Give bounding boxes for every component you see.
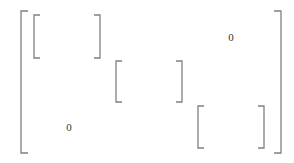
left-bracket [116, 61, 122, 102]
right-bracket [274, 11, 281, 153]
outer-matrix-brackets [21, 11, 281, 153]
block-3 [198, 106, 264, 148]
lower-zero-label: 0 [66, 121, 72, 133]
upper-zero-label: 0 [228, 31, 234, 43]
right-bracket [94, 15, 100, 58]
left-bracket [198, 106, 204, 148]
block-1 [34, 15, 100, 58]
right-bracket [258, 106, 264, 148]
right-bracket [176, 61, 182, 102]
block-2 [116, 61, 182, 102]
zero-labels: 00 [66, 31, 234, 133]
outer-matrix [21, 11, 281, 153]
left-bracket [34, 15, 40, 58]
block-diagonal-matrix-diagram: 00 [0, 0, 294, 163]
left-bracket [21, 11, 28, 153]
